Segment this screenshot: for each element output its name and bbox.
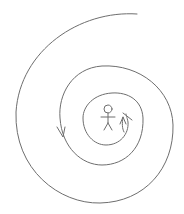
head bbox=[104, 105, 112, 113]
right-leg bbox=[108, 123, 112, 130]
left-leg bbox=[104, 123, 108, 130]
arrow-inner-icon bbox=[120, 117, 126, 132]
spiral-diagram bbox=[0, 0, 184, 214]
spiral-path bbox=[16, 14, 173, 203]
stick-figure-icon bbox=[101, 105, 115, 130]
